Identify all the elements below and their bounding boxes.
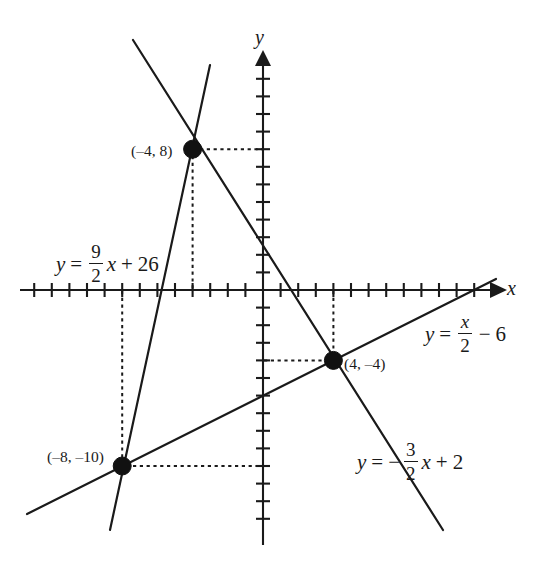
- equation-lhs-shallow: y: [425, 324, 434, 345]
- y-axis-label: y: [255, 27, 264, 47]
- point-label-c: (–8, –10): [47, 449, 104, 465]
- fraction-denominator-2: 2: [458, 336, 472, 355]
- y-axis-arrow-icon: [255, 50, 271, 66]
- point-label-a: (–4, 8): [131, 143, 172, 159]
- equation-variable-steep: x: [107, 254, 116, 275]
- equation-label-steep-line: y = 9 2 x + 26: [56, 243, 159, 286]
- equation-constant-steep: 26: [138, 254, 159, 275]
- coordinate-graph-figure: x y (–4, 8) (4, –4) (–8, –10) y = 9 2 x …: [0, 0, 539, 565]
- equation-label-negative-line: y = − 3 2 x + 2: [357, 441, 463, 484]
- fraction-numerator-3: 3: [404, 440, 418, 459]
- equation-equals-shallow: =: [436, 324, 454, 345]
- fraction-denominator-2: 2: [89, 266, 103, 285]
- equation-operator-shallow: −: [476, 324, 494, 345]
- equation-lhs-negative: y: [357, 452, 366, 473]
- equation-constant-shallow: 6: [496, 324, 507, 345]
- point-marker-b[interactable]: [324, 351, 342, 369]
- equation-label-shallow-line: y = x 2 − 6: [425, 313, 506, 356]
- fraction-denominator-2: 2: [404, 464, 418, 483]
- equation-operator-negative: +: [433, 452, 451, 473]
- fraction-numerator-x: x: [459, 312, 471, 331]
- equation-operator-steep: +: [118, 254, 136, 275]
- equation-variable-negative: x: [422, 452, 431, 473]
- fraction-numerator-9: 9: [89, 242, 103, 261]
- fraction-x-over-two: x 2: [458, 312, 472, 355]
- equation-equals-steep: =: [67, 254, 85, 275]
- equation-constant-negative: 2: [453, 452, 464, 473]
- y-axis-group: [255, 50, 271, 545]
- equation-lhs-steep: y: [56, 254, 65, 275]
- x-axis-label: x: [507, 278, 516, 298]
- point-marker-c[interactable]: [113, 457, 131, 475]
- equation-equals-negative: =: [368, 452, 386, 473]
- point-marker-a[interactable]: [184, 140, 202, 158]
- fraction-three-halves: 3 2: [404, 440, 418, 483]
- fraction-nine-halves: 9 2: [89, 242, 103, 285]
- point-label-b: (4, –4): [344, 356, 385, 372]
- x-axis-arrow-icon: [490, 282, 507, 298]
- equation-sign-negative: −: [388, 452, 400, 473]
